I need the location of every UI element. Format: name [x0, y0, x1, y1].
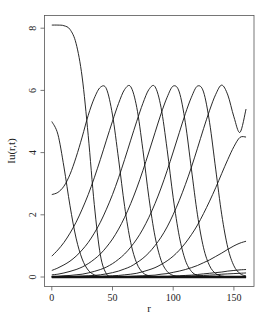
x-tick-label: 0 [49, 292, 54, 303]
y-axis-title: Iu(r,t) [5, 138, 18, 164]
series-line-t9 [52, 241, 246, 277]
line-chart: 050100150 02468 r Iu(r,t) [0, 0, 268, 325]
x-tick-label: 150 [226, 292, 241, 303]
y-tick-label: 8 [27, 26, 38, 31]
y-tick-label: 6 [27, 88, 38, 93]
series-layer [52, 25, 246, 277]
y-tick-label: 0 [27, 275, 38, 280]
x-tick-label: 100 [166, 292, 181, 303]
y-tick-label: 2 [27, 212, 38, 217]
x-tick-label: 50 [108, 292, 118, 303]
y-tick-label: 4 [27, 150, 38, 155]
x-axis-title: r [147, 302, 151, 314]
y-axis: 02468 [27, 26, 45, 280]
series-line-t6 [52, 86, 246, 277]
x-axis: 050100150 [49, 287, 241, 304]
